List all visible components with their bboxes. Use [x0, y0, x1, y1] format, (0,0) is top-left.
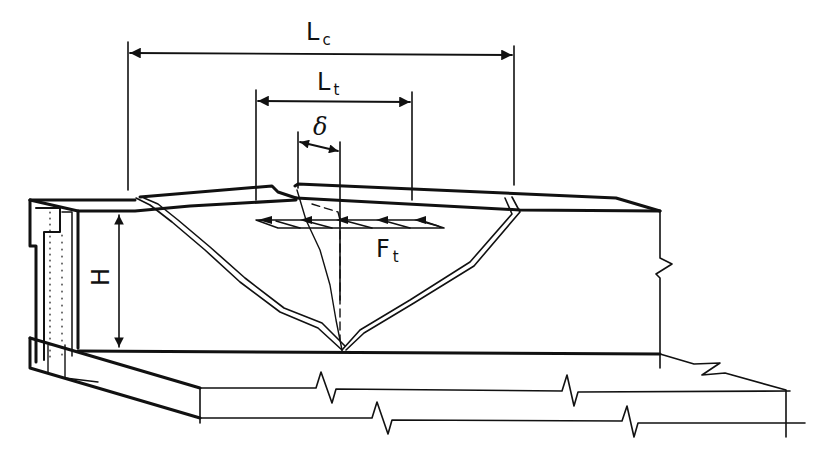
wall-failure-diagram [0, 0, 821, 456]
label-lt: Lt [317, 70, 339, 94]
label-lc: Lc [306, 20, 331, 44]
label-h-main: H [87, 268, 115, 286]
base-slab [30, 338, 805, 437]
label-lt-main: L [317, 68, 330, 96]
label-lc-sub: c [322, 31, 330, 49]
wall-section [30, 200, 78, 362]
label-lt-sub: t [333, 81, 339, 99]
label-ft-main: F [376, 235, 390, 263]
label-h: H [89, 268, 113, 286]
label-lc-main: L [306, 18, 319, 46]
wall-right-edge [656, 211, 672, 368]
tensile-force-arrows [256, 220, 444, 228]
label-ft: Ft [376, 237, 399, 261]
label-delta: δ [313, 115, 327, 139]
wall-top-right [295, 184, 660, 211]
label-delta-main: δ [313, 113, 327, 141]
dimension-lt [256, 90, 412, 200]
label-ft-sub: t [393, 248, 399, 266]
crack-left [136, 198, 345, 350]
crack-center [297, 190, 342, 350]
